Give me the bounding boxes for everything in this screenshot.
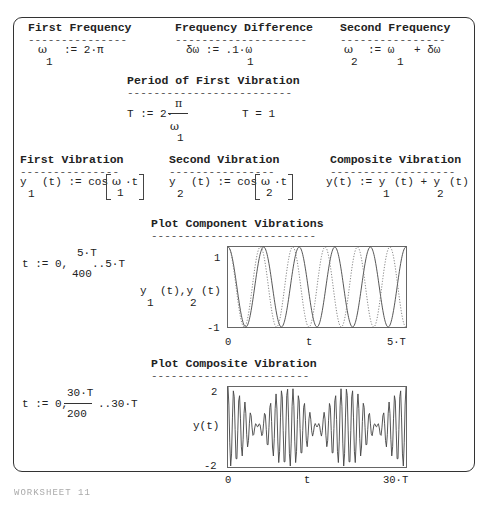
frequency-difference-underline: -------------------- <box>175 36 307 44</box>
composite-vibration-plot[interactable] <box>227 386 407 468</box>
first-vibration-heading: First Vibration <box>20 153 124 166</box>
plot1-ylabel-sub2: 2 <box>190 297 197 309</box>
y1-arg-subscript: 1 <box>117 187 124 199</box>
second-frequency-underline: ---------------- <box>340 36 446 44</box>
plot2-xlabel: t <box>304 474 310 486</box>
period-result: T = 1 <box>242 108 275 120</box>
plot-components-underline: ------------------------- <box>151 232 316 240</box>
period-denominator-subscript: 1 <box>177 132 184 144</box>
y2-subscript: 2 <box>177 188 184 200</box>
plot1-ylabel-tail: (t) <box>201 285 221 297</box>
plot1-ytick-bottom: -1 <box>207 322 220 334</box>
component-vibrations-plot[interactable] <box>227 246 407 328</box>
period-heading: Period of First Vibration <box>127 74 300 87</box>
plot1-ylabel-sub1: 1 <box>147 297 154 309</box>
delta-omega-definition[interactable]: δω := .1·ω <box>186 44 252 56</box>
first-vibration-underline: --------------- <box>20 168 119 176</box>
omega2-definition[interactable]: := ω <box>368 44 394 56</box>
plot-composite-underline: ------------------------ <box>151 372 309 380</box>
worksheet-footer-label: WORKSHEET 11 <box>14 488 91 498</box>
period-fraction-bar <box>168 113 188 114</box>
plot1-ylabel-y: y <box>140 285 147 297</box>
omega2-definition-tail: + δω <box>414 44 440 56</box>
t-range-2-denominator: 200 <box>67 408 87 420</box>
plot2-ytick-top: 2 <box>211 386 217 398</box>
y1-arg-tail: ·t <box>125 176 138 188</box>
omega1-definition[interactable]: := 2·π <box>64 44 104 56</box>
first-frequency-heading: First Frequency <box>28 21 132 34</box>
period-definition[interactable]: T := 2· <box>127 108 173 120</box>
y-composite-sub2: 2 <box>437 188 444 200</box>
y1-bracket-left <box>106 174 111 200</box>
y-composite-tail: (t) <box>449 176 469 188</box>
plot1-xtick-right: 5·T <box>387 336 406 348</box>
y2-symbol: y <box>169 176 176 188</box>
plot1-ytick-top: 1 <box>214 252 220 264</box>
y2-arg-subscript: 2 <box>266 187 273 199</box>
omega1-subscript: 1 <box>46 56 53 68</box>
plot-composite-heading: Plot Composite Vibration <box>151 357 317 370</box>
t-range-1-denominator: 400 <box>72 268 92 280</box>
plot2-xtick-right: 30·T <box>383 474 408 486</box>
omega2-symbol: ω <box>344 43 353 56</box>
second-vibration-heading: Second Vibration <box>169 153 279 166</box>
y2-bracket-right <box>288 174 293 200</box>
period-underline: ------------------------- <box>127 89 292 97</box>
t-range-2-definition[interactable]: t := 0, <box>22 398 68 410</box>
y-composite-definition[interactable]: y(t) := y <box>326 176 385 188</box>
y2-definition[interactable]: (t) := cos <box>191 176 257 188</box>
y1-symbol: y <box>20 176 27 188</box>
t-range-2-numerator: 30·T <box>67 387 93 399</box>
plot1-xtick-left: 0 <box>225 336 231 348</box>
omega2-subscript: 2 <box>351 56 358 68</box>
plot2-xtick-left: 0 <box>225 474 231 486</box>
second-frequency-heading: Second Frequency <box>340 21 450 34</box>
y1-bracket-right <box>139 174 144 200</box>
t-range-1-definition[interactable]: t := 0, <box>22 258 68 270</box>
y1-subscript: 1 <box>28 188 35 200</box>
t-range-2-tail: ..30·T <box>98 398 138 410</box>
plot2-ytick-bottom: -2 <box>204 460 217 472</box>
t-range-1-tail: ..5·T <box>92 258 125 270</box>
plot2-ylabel: y(t) <box>193 420 219 432</box>
plot-components-heading: Plot Component Vibrations <box>151 217 324 230</box>
delta-omega-subscript: 1 <box>247 56 254 68</box>
omega2-def-subscript: 1 <box>397 56 404 68</box>
plot1-ylabel-mid: (t),y <box>160 285 193 297</box>
y2-arg-tail: ·t <box>274 176 287 188</box>
plot1-xlabel: t <box>306 336 312 348</box>
y1-definition[interactable]: (t) := cos <box>42 176 108 188</box>
composite-vibration-heading: Composite Vibration <box>330 153 461 166</box>
period-numerator-pi: π <box>175 97 182 110</box>
composite-vibration-underline: ------------------- <box>330 168 455 176</box>
y-composite-mid: (t) + y <box>394 176 440 188</box>
t-range-2-fraction-bar <box>64 403 92 404</box>
y2-bracket-left <box>255 174 260 200</box>
omega1-symbol: ω <box>38 43 47 56</box>
frequency-difference-heading: Frequency Difference <box>175 21 313 34</box>
y-composite-sub1: 1 <box>383 188 390 200</box>
